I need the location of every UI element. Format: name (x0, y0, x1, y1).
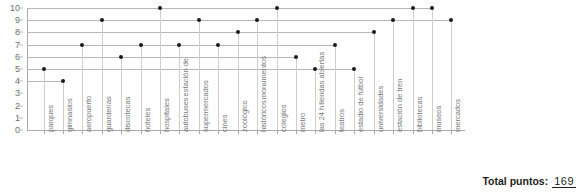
x-axis-label-line: monumentos (260, 56, 269, 99)
value-guide-line (27, 69, 354, 70)
x-axis-label-line: tiendas abiertas (318, 52, 327, 105)
x-axis-label: museos (435, 106, 444, 132)
x-axis-label: cines (221, 114, 230, 132)
x-axis-label: mercados (454, 99, 463, 132)
total-points-value: 169 (552, 175, 576, 188)
data-point[interactable] (42, 67, 46, 71)
data-point[interactable] (333, 43, 337, 47)
x-axis-labels: parquesgimnasiosaeropuertoguarderíasdisc… (27, 132, 464, 194)
x-axis-label-line: universidades (377, 86, 386, 132)
value-guide-line (27, 20, 451, 21)
data-point[interactable] (391, 18, 395, 22)
x-axis-label: hoteles (144, 108, 153, 132)
data-point[interactable] (352, 67, 356, 71)
y-tick-mark (19, 56, 23, 57)
category-drop-line (335, 45, 336, 130)
x-axis-label-line: hoteles (144, 108, 153, 132)
data-point[interactable] (372, 30, 376, 34)
x-axis-label-line: guarderías (105, 96, 114, 132)
x-axis-label: parques (47, 105, 56, 132)
x-axis-label-line: mercados (454, 99, 463, 132)
data-point[interactable] (177, 43, 181, 47)
category-drop-line (63, 81, 64, 130)
x-axis-label-line: museos (435, 106, 444, 132)
data-point[interactable] (61, 79, 65, 83)
x-axis-label: hospitales (163, 98, 172, 132)
value-guide-line (27, 45, 335, 46)
data-point[interactable] (100, 18, 104, 22)
x-axis-label: discotecas (124, 97, 133, 132)
x-axis-label: teatros (338, 109, 347, 132)
y-tick-mark (19, 105, 23, 106)
x-axis-label: guarderías (105, 96, 114, 132)
category-drop-line (354, 69, 355, 130)
data-point[interactable] (255, 18, 259, 22)
y-tick-mark (19, 81, 23, 82)
y-tick-mark (19, 20, 23, 21)
x-axis-label-line: históricos (260, 100, 269, 132)
category-drop-line (413, 8, 414, 130)
category-drop-line (257, 20, 258, 130)
x-axis-label-line: cines (221, 114, 230, 132)
category-drop-line (160, 8, 161, 130)
y-tick-mark (19, 117, 23, 118)
data-point[interactable] (139, 43, 143, 47)
category-drop-line (374, 32, 375, 130)
category-drop-line (296, 57, 297, 130)
value-guide-line (27, 8, 432, 9)
category-drop-line (102, 20, 103, 130)
value-guide-line (27, 81, 63, 82)
x-axis-label-line: gimnasios (66, 98, 75, 132)
value-guide-line (27, 57, 296, 58)
x-axis-label-line: zoológico (241, 100, 250, 132)
y-tick-mark (19, 32, 23, 33)
category-drop-line (44, 69, 45, 130)
category-drop-line (199, 20, 200, 130)
value-guide-line (27, 32, 374, 33)
category-drop-line (451, 20, 452, 130)
x-axis-label-line: hospitales (163, 98, 172, 132)
x-axis-label: universidades (377, 86, 386, 132)
x-axis-label-line: las 24 h (318, 106, 327, 132)
category-drop-line (277, 8, 278, 130)
data-point[interactable] (158, 6, 162, 10)
x-axis-label: monumentoshistóricos (260, 56, 269, 132)
x-axis-label: bibliotecas (416, 97, 425, 132)
y-tick-mark (19, 8, 23, 9)
x-axis-label: estadio de fútbol (357, 77, 366, 132)
x-axis-label: aeropuerto (85, 96, 94, 132)
x-axis-label-line: colegios (280, 104, 289, 132)
x-axis-label-line: parques (47, 105, 56, 132)
data-point[interactable] (430, 6, 434, 10)
total-points-label: Total puntos: (482, 175, 548, 187)
x-axis-label: zoológico (241, 100, 250, 132)
category-drop-line (238, 32, 239, 130)
y-tick-mark (19, 44, 23, 45)
x-axis-label-line: discotecas (124, 97, 133, 132)
category-drop-line (432, 8, 433, 130)
category-drop-line (141, 45, 142, 130)
data-point[interactable] (294, 55, 298, 59)
x-axis-label: metro (299, 113, 308, 132)
x-axis-label-line: autobuses (182, 97, 191, 132)
y-tick-mark (19, 93, 23, 94)
data-point[interactable] (80, 43, 84, 47)
x-axis-label: estación de tren (396, 79, 405, 132)
y-tick-mark (19, 130, 23, 131)
x-axis-label: tiendas abiertaslas 24 h (318, 52, 327, 132)
data-point[interactable] (119, 55, 123, 59)
x-axis-label-line: metro (299, 113, 308, 132)
x-axis-label-line: teatros (338, 109, 347, 132)
y-tick-mark (19, 69, 23, 70)
x-axis-label-line: estación de (182, 58, 191, 96)
scatter-chart: 109876543210 parquesgimnasiosaeropuertog… (0, 0, 584, 194)
data-point[interactable] (449, 18, 453, 22)
x-axis-label: supermercados (202, 80, 211, 132)
data-point[interactable] (236, 30, 240, 34)
x-axis-label-line: supermercados (202, 80, 211, 132)
category-drop-line (393, 20, 394, 130)
data-point[interactable] (197, 18, 201, 22)
data-point[interactable] (411, 6, 415, 10)
data-point[interactable] (275, 6, 279, 10)
data-point[interactable] (216, 43, 220, 47)
